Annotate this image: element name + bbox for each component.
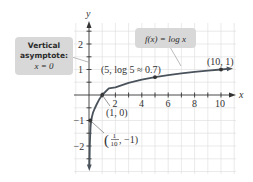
x-axis-label: x [238,89,244,100]
function-callout-text: f(x) = log x [145,34,186,44]
y-axis-arrow-icon [87,21,92,28]
leader-line-one [102,95,110,106]
point-label-tenth: ( 1 10 , −1) [104,132,138,150]
curve-arrow-down-icon [87,165,92,172]
asymptote-callout-line2: asymptote: [20,51,68,60]
y-tick-label: 2 [78,39,83,50]
y-tick-label: 1 [78,64,83,75]
x-axis-arrow-icon [229,93,236,98]
svg-text:(: ( [104,132,109,149]
x-tick-label: 8 [192,98,197,109]
svg-text:1: 1 [113,132,117,140]
x-tick-label: 4 [139,98,144,109]
y-axis-label: y [85,8,91,19]
curve-arrow-icon [227,66,234,71]
svg-text:, −1): , −1) [119,134,138,146]
point-five [153,75,157,79]
x-axis [74,93,232,98]
asymptote-callout-line3: x = 0 [33,61,54,71]
point-label-one: (1, 0) [106,107,128,119]
point-label-five: (5, log 5 ≈ 0.7) [101,64,161,76]
x-tick-label: 10 [215,98,225,109]
point-label-ten: (10, 1) [207,56,234,68]
asymptote-callout-line1: Vertical [28,41,60,50]
y-tick-label: −2 [74,141,85,152]
svg-text:10: 10 [111,140,119,148]
x-tick-label: 6 [166,98,171,109]
log-function-graph: y x 2 4 6 8 10 2 1 −1 −2 (1, 0) (5, log … [0,0,253,182]
point-ten [219,68,223,72]
asymptote-callout-pointer [72,57,88,62]
y-tick-label: −1 [74,115,85,126]
